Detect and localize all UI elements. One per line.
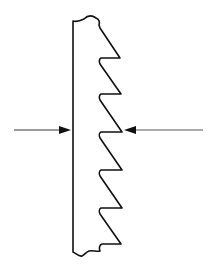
right-force-arrow xyxy=(124,126,203,134)
arrowhead-left-icon xyxy=(124,126,136,134)
arrowhead-right-icon xyxy=(59,126,71,134)
serrated-strip xyxy=(73,16,122,256)
left-force-arrow xyxy=(14,126,71,134)
diagram-canvas xyxy=(0,0,219,274)
